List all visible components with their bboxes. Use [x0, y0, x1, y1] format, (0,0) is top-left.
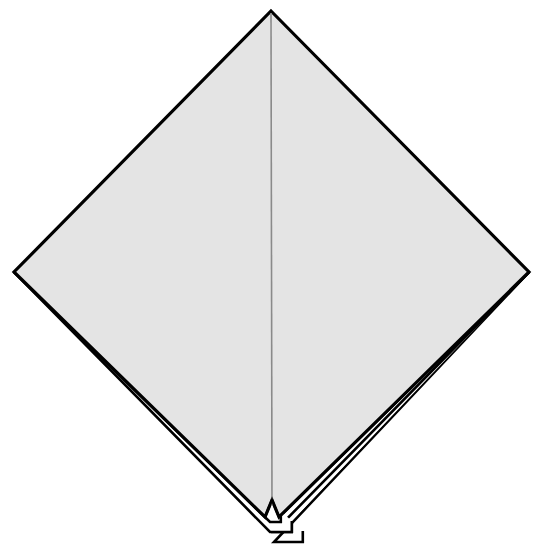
origami-diagram [0, 0, 539, 556]
center-fold-line [271, 13, 272, 505]
origami-figure-canvas [0, 0, 539, 556]
